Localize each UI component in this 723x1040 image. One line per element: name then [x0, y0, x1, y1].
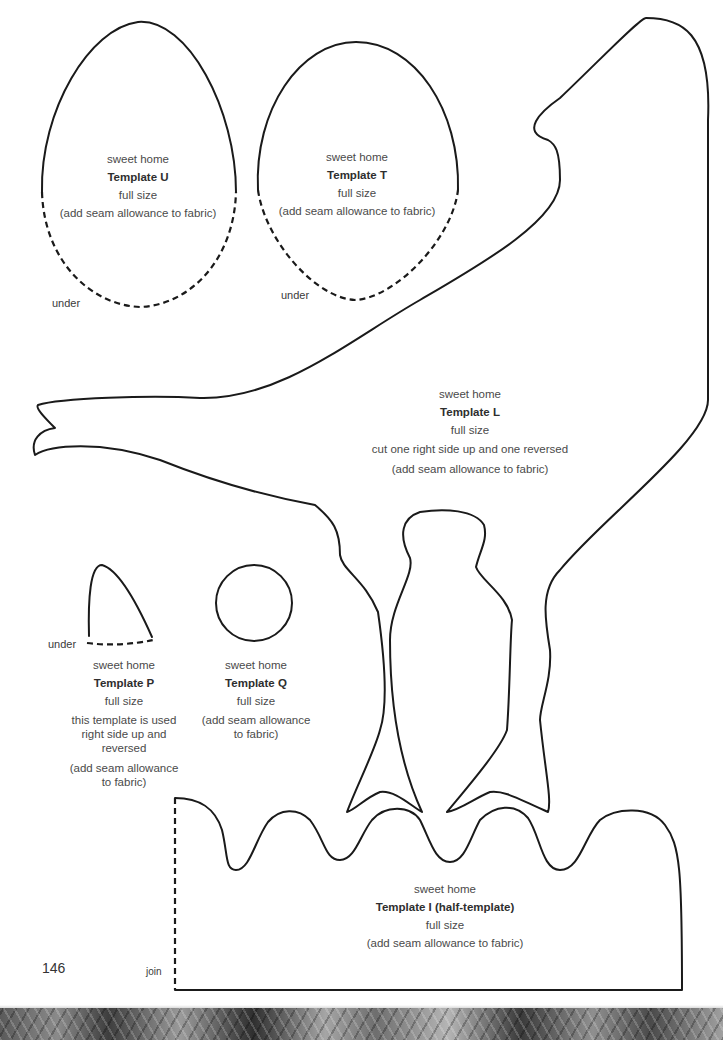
note-text: this template is used right side up and … [65, 713, 183, 755]
brand-text: sweet home [65, 656, 183, 674]
under-label-p: under [48, 638, 76, 650]
template-t-label: sweet home Template T full size (add sea… [257, 148, 457, 220]
note-text: (add seam allowance to fabric) [65, 761, 183, 789]
size-text: full size [370, 421, 570, 439]
template-p-shape [87, 565, 153, 644]
size-text: full size [40, 186, 236, 204]
under-label-t: under [281, 289, 309, 301]
note-text: (add seam allowance to fabric) [40, 204, 236, 222]
brand-text: sweet home [370, 385, 570, 403]
template-q-shape [216, 565, 292, 641]
template-title: Template L [370, 403, 570, 421]
note-text: (add seam allowance to fabric) [198, 713, 314, 741]
template-l-label: sweet home Template L full size cut one … [370, 385, 570, 476]
size-text: full size [65, 692, 183, 710]
brand-text: sweet home [257, 148, 457, 166]
brand-text: sweet home [330, 880, 560, 898]
template-title: Template T [257, 166, 457, 184]
under-label-u: under [52, 297, 80, 309]
join-label: join [146, 966, 162, 977]
template-title: Template Q [198, 674, 314, 692]
template-q-label: sweet home Template Q full size (add sea… [198, 656, 314, 741]
size-text: full size [330, 916, 560, 934]
note-text: (add seam allowance to fabric) [330, 934, 560, 952]
size-text: full size [198, 692, 314, 710]
template-p-label: sweet home Template P full size this tem… [65, 656, 183, 789]
template-title: Template I (half-template) [330, 898, 560, 916]
template-title: Template P [65, 674, 183, 692]
page-number: 146 [42, 960, 65, 976]
template-title: Template U [40, 168, 236, 186]
brand-text: sweet home [198, 656, 314, 674]
template-i-label: sweet home Template I (half-template) fu… [330, 880, 560, 952]
note-text: cut one right side up and one reversed [370, 442, 570, 456]
note-text: (add seam allowance to fabric) [257, 202, 457, 220]
template-u-label: sweet home Template U full size (add sea… [40, 150, 236, 222]
decorative-fabric-footer [0, 1008, 723, 1040]
note-text: (add seam allowance to fabric) [370, 462, 570, 476]
size-text: full size [257, 184, 457, 202]
brand-text: sweet home [40, 150, 236, 168]
